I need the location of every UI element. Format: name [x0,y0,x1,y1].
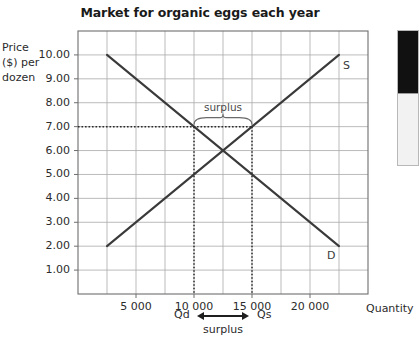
side-panel-light-region [398,93,418,165]
qd-label: Qd [174,308,190,321]
chart-figure: Market for organic eggs each year Price … [0,0,419,337]
qs-label: Qs [257,308,271,321]
y-tick-label: 6.00 [26,144,70,157]
y-tick-label: 3.00 [26,215,70,228]
x-tick-label: 5 000 [120,300,152,313]
y-tick-label: 5.00 [26,167,70,180]
y-tick-label: 10.00 [26,48,70,61]
surplus-bracket-label: surplus [204,101,242,113]
side-panel-dark-region [398,31,418,93]
supply-curve-label: S [343,59,350,72]
y-tick-label: 1.00 [26,263,70,276]
x-tick-label: 20 000 [291,300,330,313]
y-tick-label: 7.00 [26,120,70,133]
demand-curve-label: D [327,249,335,262]
cropped-side-panel [397,30,419,166]
y-tick-label: 4.00 [26,191,70,204]
y-tick-label: 2.00 [26,239,70,252]
y-tick-label: 9.00 [26,72,70,85]
y-tick-label: 8.00 [26,96,70,109]
surplus-axis-label: surplus [203,323,243,336]
